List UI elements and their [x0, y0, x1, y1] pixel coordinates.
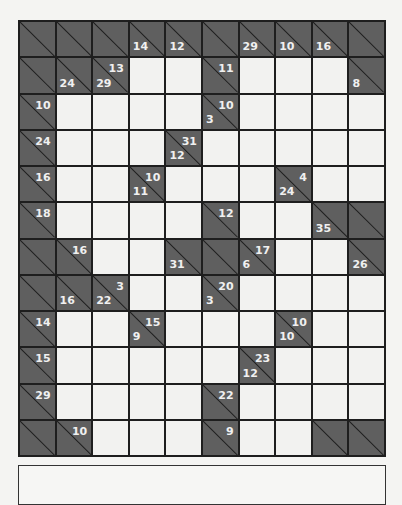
- entry-cell[interactable]: [349, 276, 384, 310]
- clue-cell: 12: [203, 203, 238, 237]
- entry-cell[interactable]: [93, 131, 128, 165]
- clue-cell: 1010: [276, 312, 311, 346]
- across-clue: 10: [218, 100, 233, 111]
- clue-cell: [93, 22, 128, 56]
- entry-cell[interactable]: [240, 58, 275, 92]
- diagonal-divider-icon: [203, 240, 238, 274]
- clue-cell: 14: [20, 312, 55, 346]
- diagonal-divider-icon: [20, 276, 55, 310]
- diagonal-divider-icon: [349, 421, 384, 455]
- entry-cell[interactable]: [57, 203, 92, 237]
- entry-cell[interactable]: [313, 240, 348, 274]
- clue-cell: 29: [240, 22, 275, 56]
- entry-cell[interactable]: [276, 95, 311, 129]
- entry-cell[interactable]: [93, 203, 128, 237]
- entry-cell[interactable]: [93, 348, 128, 382]
- across-clue: 17: [255, 245, 270, 256]
- entry-cell[interactable]: [349, 385, 384, 419]
- clue-cell: 16: [20, 167, 55, 201]
- across-clue: 31: [182, 136, 197, 147]
- entry-cell[interactable]: [57, 312, 92, 346]
- entry-cell[interactable]: [276, 276, 311, 310]
- entry-cell[interactable]: [130, 240, 165, 274]
- entry-cell[interactable]: [349, 312, 384, 346]
- entry-cell[interactable]: [166, 385, 201, 419]
- entry-cell[interactable]: [276, 240, 311, 274]
- entry-cell[interactable]: [313, 131, 348, 165]
- entry-cell[interactable]: [57, 131, 92, 165]
- entry-cell[interactable]: [313, 95, 348, 129]
- entry-cell[interactable]: [166, 95, 201, 129]
- entry-cell[interactable]: [276, 348, 311, 382]
- entry-cell[interactable]: [240, 385, 275, 419]
- clue-cell: [20, 58, 55, 92]
- entry-cell[interactable]: [130, 58, 165, 92]
- across-clue: 3: [116, 281, 124, 292]
- entry-cell[interactable]: [130, 348, 165, 382]
- entry-cell[interactable]: [313, 348, 348, 382]
- clue-cell: 9: [203, 421, 238, 455]
- entry-cell[interactable]: [203, 167, 238, 201]
- across-clue: 11: [218, 63, 233, 74]
- answer-box: [18, 465, 386, 505]
- across-clue: 23: [255, 353, 270, 364]
- across-clue: 29: [35, 390, 50, 401]
- entry-cell[interactable]: [240, 167, 275, 201]
- entry-cell[interactable]: [276, 203, 311, 237]
- entry-cell[interactable]: [203, 131, 238, 165]
- entry-cell[interactable]: [57, 167, 92, 201]
- entry-cell[interactable]: [276, 421, 311, 455]
- entry-cell[interactable]: [57, 95, 92, 129]
- clue-cell: [349, 22, 384, 56]
- entry-cell[interactable]: [349, 167, 384, 201]
- entry-cell[interactable]: [313, 385, 348, 419]
- entry-cell[interactable]: [57, 385, 92, 419]
- entry-cell[interactable]: [130, 421, 165, 455]
- entry-cell[interactable]: [240, 421, 275, 455]
- entry-cell[interactable]: [203, 348, 238, 382]
- entry-cell[interactable]: [93, 312, 128, 346]
- across-clue: 20: [218, 281, 233, 292]
- entry-cell[interactable]: [166, 167, 201, 201]
- entry-cell[interactable]: [349, 131, 384, 165]
- entry-cell[interactable]: [130, 203, 165, 237]
- entry-cell[interactable]: [166, 276, 201, 310]
- entry-cell[interactable]: [130, 276, 165, 310]
- across-clue: 10: [145, 172, 160, 183]
- entry-cell[interactable]: [130, 385, 165, 419]
- clue-cell: 322: [93, 276, 128, 310]
- clue-cell: [57, 22, 92, 56]
- entry-cell[interactable]: [276, 58, 311, 92]
- entry-cell[interactable]: [349, 95, 384, 129]
- entry-cell[interactable]: [276, 131, 311, 165]
- entry-cell[interactable]: [313, 167, 348, 201]
- entry-cell[interactable]: [240, 131, 275, 165]
- entry-cell[interactable]: [240, 312, 275, 346]
- entry-cell[interactable]: [93, 240, 128, 274]
- entry-cell[interactable]: [166, 312, 201, 346]
- clue-cell: 24: [57, 58, 92, 92]
- entry-cell[interactable]: [130, 131, 165, 165]
- entry-cell[interactable]: [93, 95, 128, 129]
- entry-cell[interactable]: [240, 203, 275, 237]
- entry-cell[interactable]: [240, 276, 275, 310]
- entry-cell[interactable]: [166, 203, 201, 237]
- entry-cell[interactable]: [313, 312, 348, 346]
- entry-cell[interactable]: [313, 58, 348, 92]
- across-clue: 4: [299, 172, 307, 183]
- entry-cell[interactable]: [166, 58, 201, 92]
- entry-cell[interactable]: [166, 348, 201, 382]
- clue-cell: 3112: [166, 131, 201, 165]
- entry-cell[interactable]: [276, 385, 311, 419]
- entry-cell[interactable]: [240, 95, 275, 129]
- entry-cell[interactable]: [130, 95, 165, 129]
- entry-cell[interactable]: [313, 276, 348, 310]
- entry-cell[interactable]: [93, 167, 128, 201]
- entry-cell[interactable]: [166, 421, 201, 455]
- entry-cell[interactable]: [203, 312, 238, 346]
- entry-cell[interactable]: [93, 421, 128, 455]
- entry-cell[interactable]: [93, 385, 128, 419]
- entry-cell[interactable]: [349, 348, 384, 382]
- entry-cell[interactable]: [57, 348, 92, 382]
- down-clue: 31: [169, 259, 184, 270]
